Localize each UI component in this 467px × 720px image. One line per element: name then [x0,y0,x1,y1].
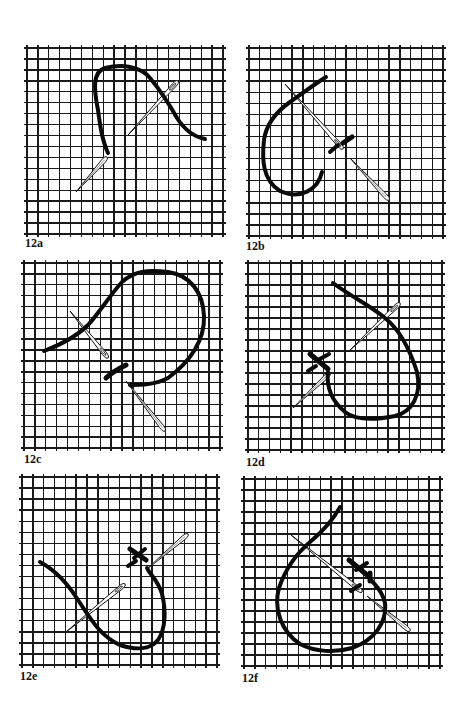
panel-label-12e: 12e [20,670,37,682]
needle-icon [124,380,166,433]
panel-12a [24,45,226,237]
needle-icon [291,371,331,409]
panel-label-12c: 12c [24,453,41,465]
panel-12e [19,474,220,668]
grid [241,476,443,669]
panel-12b [246,45,446,239]
panel-label-12d: 12d [246,456,265,468]
panel-12d [245,260,445,453]
thread-path [330,145,338,152]
panel-label-12a: 12a [25,237,43,249]
panel-label-12b: 12b [246,240,265,252]
thread-path [343,137,352,143]
panel-12f [241,476,443,669]
thread-path [40,562,165,648]
grid [19,474,220,668]
figure-canvas [0,0,467,720]
panel-12c [21,260,223,451]
panel-label-12f: 12f [242,672,258,684]
grid [24,45,226,237]
stitch-bar [308,366,316,371]
needle-icon [348,157,390,202]
stitch-bar [318,354,329,360]
